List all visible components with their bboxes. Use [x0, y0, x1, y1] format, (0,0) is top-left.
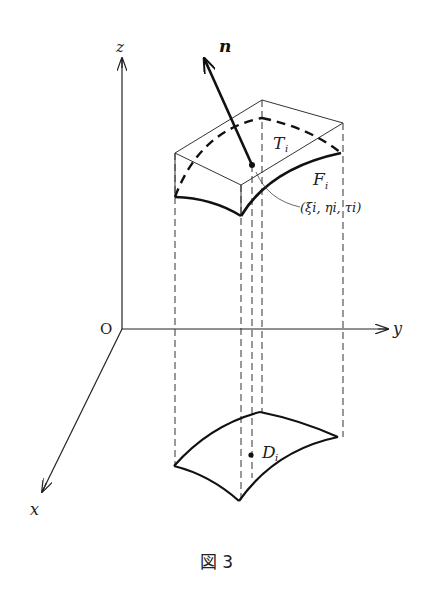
svg-text:D: D [261, 442, 276, 462]
domain-region-label: D i [261, 442, 278, 463]
figure-caption: 図 3 [0, 548, 433, 573]
domain-region [174, 412, 338, 501]
domain-point [248, 452, 253, 457]
svg-text:i: i [285, 143, 288, 154]
surface-integral-diagram: z y x O n T i F i (ξi, ηi, τi) D i [0, 0, 433, 597]
tangent-plane-label: T i [273, 133, 288, 154]
normal-vector-label: n [219, 36, 231, 56]
z-axis-label: z [115, 38, 124, 56]
svg-text:F: F [312, 169, 326, 189]
coordinate-axes [42, 58, 388, 492]
x-axis-label: x [30, 500, 39, 519]
normal-vector-arrow [204, 58, 252, 165]
svg-text:i: i [325, 180, 328, 191]
y-axis-label: y [392, 319, 403, 338]
surface-point [249, 162, 255, 168]
origin-label: O [100, 320, 112, 338]
point-coordinates-label: (ξi, ηi, τi) [300, 200, 361, 215]
x-axis [42, 329, 122, 492]
surface-patch-label: F i [312, 169, 328, 191]
svg-text:i: i [275, 452, 278, 463]
